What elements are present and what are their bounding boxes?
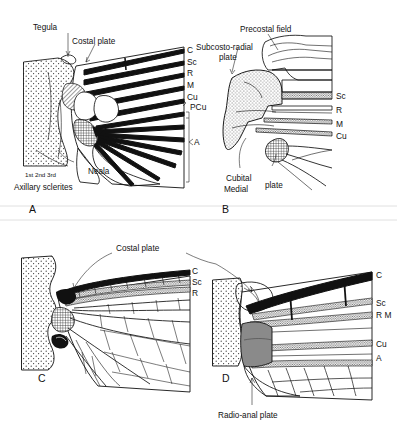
- label-plate: plate: [265, 181, 283, 190]
- figure-canvas: Tegula Costal plate Neala 1st 2nd 3rd Ax…: [0, 0, 397, 432]
- panel-d-vein-sc-label: Sc: [376, 298, 386, 308]
- median-plate: [94, 95, 119, 122]
- label-tegula: Tegula: [33, 23, 58, 32]
- label-cubital: Cubital: [226, 174, 252, 183]
- label-neala: Neala: [88, 167, 110, 176]
- label-panel-c-costal-plate: Costal plate: [116, 244, 160, 253]
- label-radio-anal-plate: Radio-anal plate: [218, 411, 278, 420]
- panel-letter-a: A: [29, 203, 36, 215]
- panel-a-vein-a: A: [194, 137, 200, 147]
- panel-a-vein-sc: Sc: [187, 57, 197, 67]
- panel-d-vein-cu-label: Cu: [376, 339, 387, 349]
- panel-d-thorax-region: [213, 278, 243, 366]
- label-costal-plate: Costal plate: [72, 37, 116, 46]
- label-subcosto-radial-1: Subcosto-radial: [196, 43, 253, 52]
- panel-letter-b: B: [222, 203, 229, 215]
- label-axillary-sclerites: Axillary sclerites: [14, 183, 73, 192]
- panel-b-vein-m: M: [336, 119, 343, 129]
- panel-c-thorax-region: [22, 256, 57, 370]
- panel-c-vein-c-label: C: [192, 266, 198, 276]
- panel-a-vein-c: C: [187, 45, 193, 55]
- panel-a-vein-cu: Cu: [187, 92, 198, 102]
- panel-d-vein-c-label: C: [376, 270, 382, 280]
- label-subcosto-radial-2: plate: [219, 53, 237, 62]
- label-sclerite-numbers: 1st 2nd 3rd: [25, 171, 57, 178]
- panel-c-vein-sc-label: Sc: [192, 277, 202, 287]
- panel-b-vein-r: R: [336, 105, 342, 115]
- panel-letter-d: D: [222, 372, 230, 384]
- vein-sc-band: [282, 92, 332, 99]
- panel-b-vein-cu: Cu: [336, 131, 347, 141]
- panel-a-vein-pcu: PCu: [190, 102, 207, 112]
- label-medial: Medial: [224, 185, 248, 194]
- label-precostal-field: Precostal field: [240, 25, 292, 34]
- panel-b-vein-sc: Sc: [336, 91, 346, 101]
- humeral-crossvein: [125, 58, 126, 70]
- panel-c-vein-r-label: R: [192, 288, 198, 298]
- radio-anal-plate-region: [241, 322, 272, 367]
- panel-a-vein-m: M: [187, 80, 194, 90]
- panel-a-vein-r: R: [187, 68, 193, 78]
- panel-d-vein-a-label: A: [376, 353, 382, 363]
- vein-r-band: [272, 106, 332, 110]
- panel-letter-c: C: [38, 372, 46, 384]
- panel-d-vein-rm-label: R M: [376, 310, 391, 320]
